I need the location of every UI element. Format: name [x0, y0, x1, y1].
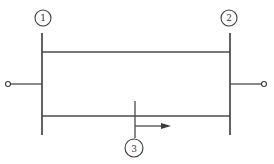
- left-terminal: [6, 82, 43, 87]
- right-terminal-node-icon: [262, 82, 267, 87]
- bus-1-label: 1: [40, 13, 46, 23]
- network-diagram: 1 2 3: [0, 0, 274, 164]
- fault-point-3: 3: [125, 101, 171, 157]
- right-terminal: [230, 82, 267, 87]
- arrow-right-icon: [161, 123, 171, 129]
- fault-point-label: 3: [131, 144, 137, 154]
- left-terminal-node-icon: [6, 82, 11, 87]
- bus-2-label: 2: [226, 13, 232, 23]
